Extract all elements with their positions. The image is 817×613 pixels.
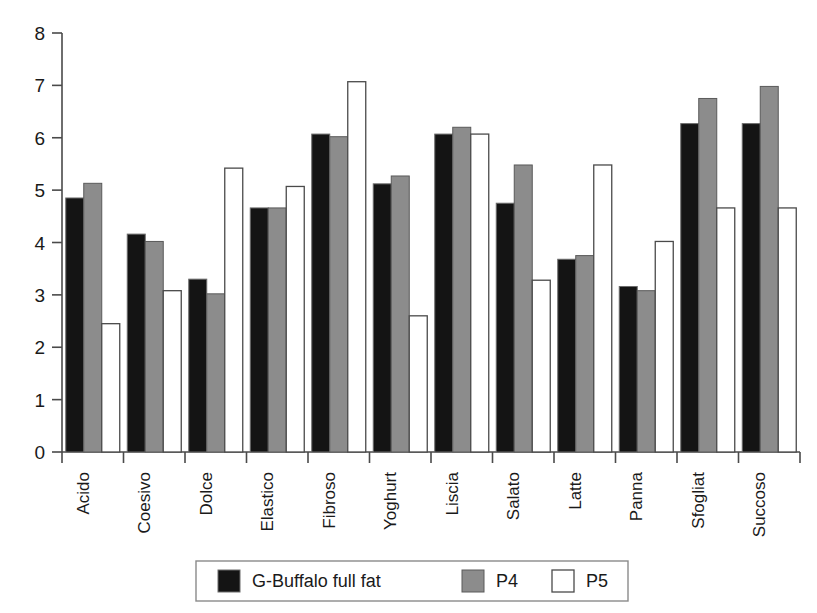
bar <box>373 184 391 452</box>
x-axis-category-labels: AcidoCoesivoDolceElasticoFibrosoYoghurtL… <box>74 471 770 537</box>
legend-label: P4 <box>496 571 518 591</box>
bars-container <box>66 82 797 452</box>
x-category-label: Fibroso <box>320 472 339 529</box>
bar <box>286 186 304 452</box>
x-category-label: Succoso <box>750 472 769 537</box>
bar <box>145 241 163 452</box>
bar <box>84 183 102 452</box>
bar <box>496 203 514 452</box>
y-tick-label: 6 <box>34 128 45 149</box>
bar <box>637 291 655 452</box>
x-category-label: Salato <box>504 472 523 520</box>
bar <box>250 208 268 452</box>
bar-group <box>127 234 181 452</box>
bar-group <box>558 165 612 452</box>
x-category-label: Yoghurt <box>381 472 400 530</box>
bar <box>435 134 453 452</box>
x-category-label: Elastico <box>258 472 277 532</box>
x-axis: AcidoCoesivoDolceElasticoFibrosoYoghurtL… <box>62 452 800 537</box>
bar <box>312 134 330 452</box>
bar <box>330 137 348 452</box>
legend-swatch <box>218 570 240 592</box>
x-category-label: Dolce <box>197 472 216 515</box>
bar <box>409 316 427 452</box>
y-tick-label: 1 <box>34 390 45 411</box>
y-axis-tick-labels: 012345678 <box>34 23 45 463</box>
x-category-label: Liscia <box>443 471 462 515</box>
bar <box>471 134 489 452</box>
bar <box>681 124 699 452</box>
bar-group <box>312 82 366 452</box>
bar-group <box>619 241 673 452</box>
bar <box>558 259 576 452</box>
bar <box>348 82 366 452</box>
bar-group <box>373 176 427 452</box>
bar-group <box>496 165 550 452</box>
chart-canvas: 012345678 AcidoCoesivoDolceElasticoFibro… <box>0 0 817 613</box>
bar-group <box>250 186 304 452</box>
bar <box>66 198 84 452</box>
bar <box>760 86 778 452</box>
bar-group <box>66 183 120 452</box>
bar <box>532 280 550 452</box>
y-tick-label: 3 <box>34 285 45 306</box>
bar <box>102 324 120 452</box>
bar <box>268 208 286 452</box>
y-tick-label: 5 <box>34 180 45 201</box>
chart-legend: G-Buffalo full fatP4P5 <box>196 561 628 601</box>
bar-group <box>189 168 243 452</box>
bar <box>453 127 471 452</box>
y-tick-label: 4 <box>34 233 45 254</box>
x-category-label: Panna <box>627 471 646 521</box>
x-category-label: Coesivo <box>135 472 154 533</box>
bar-chart: 012345678 AcidoCoesivoDolceElasticoFibro… <box>0 0 817 613</box>
bar <box>127 234 145 452</box>
bar <box>391 176 409 452</box>
bar-group <box>681 98 735 452</box>
y-tick-label: 0 <box>34 442 45 463</box>
bar <box>655 241 673 452</box>
bar <box>594 165 612 452</box>
legend-swatch <box>552 570 574 592</box>
bar <box>207 294 225 452</box>
x-category-label: Sfogliat <box>689 472 708 529</box>
bar <box>778 208 796 452</box>
legend-label: G-Buffalo full fat <box>252 571 381 591</box>
bar <box>619 286 637 452</box>
bar-group <box>435 127 489 452</box>
x-category-label: Latte <box>566 472 585 510</box>
bar <box>163 291 181 452</box>
y-axis: 012345678 <box>34 23 62 463</box>
legend-swatch <box>462 570 484 592</box>
bar <box>742 124 760 452</box>
bar <box>514 165 532 452</box>
y-tick-label: 8 <box>34 23 45 44</box>
bar <box>225 168 243 452</box>
bar <box>699 98 717 452</box>
x-axis-ticks <box>62 452 800 463</box>
y-axis-ticks <box>52 33 62 452</box>
x-category-label: Acido <box>74 472 93 515</box>
y-tick-label: 7 <box>34 75 45 96</box>
y-tick-label: 2 <box>34 337 45 358</box>
bar <box>576 256 594 452</box>
bar <box>189 279 207 452</box>
bar-group <box>742 86 796 452</box>
legend-label: P5 <box>586 571 608 591</box>
bar <box>717 208 735 452</box>
